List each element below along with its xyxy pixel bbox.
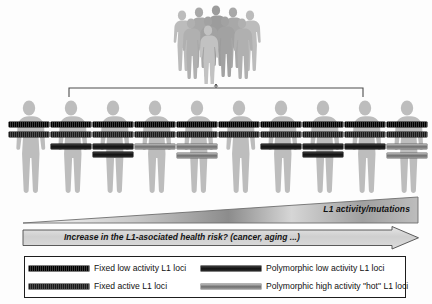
l1-locus-bar-poly-low — [345, 144, 385, 149]
l1-locus-bar-poly-low — [303, 152, 343, 157]
individual-10 — [386, 98, 428, 196]
l1-locus-bar-fixed-active — [93, 132, 133, 137]
legend-item-fixed-low: Fixed low activity L1 loci — [29, 264, 201, 273]
person-silhouette-icon — [8, 98, 50, 196]
legend-swatch-fixed-active-icon — [29, 284, 89, 289]
l1-locus-bar-fixed-active — [9, 132, 49, 137]
legend-item-fixed-active: Fixed active L1 loci — [29, 282, 201, 291]
l1-locus-bar-poly-hot — [135, 144, 175, 149]
individual-2 — [50, 98, 92, 196]
population-crowd — [163, 2, 269, 84]
l1-locus-bar-fixed-low — [387, 122, 427, 127]
l1-locus-bar-poly-hot — [177, 153, 217, 158]
l1-locus-bar-fixed-active — [219, 132, 259, 137]
person-silhouette-icon — [218, 98, 260, 196]
l1-locus-bar-fixed-low — [177, 122, 217, 127]
l1-locus-bar-fixed-active — [303, 132, 343, 137]
individuals-row — [8, 98, 428, 196]
figure-canvas: L1 activity/mutations Increase in the L1… — [0, 0, 432, 304]
individual-7 — [260, 98, 302, 196]
crowd-svg — [163, 2, 269, 84]
individual-8 — [302, 98, 344, 196]
individual-4 — [134, 98, 176, 196]
l1-locus-bar-fixed-low — [93, 122, 133, 127]
individual-9 — [344, 98, 386, 196]
legend-label-poly-low: Polymorphic low activity L1 loci — [266, 264, 384, 273]
l1-locus-bar-fixed-active — [387, 132, 427, 137]
l1-locus-bar-fixed-active — [135, 132, 175, 137]
l1-locus-bar-fixed-active — [51, 132, 91, 137]
l1-locus-bar-fixed-low — [261, 122, 301, 127]
legend-swatch-poly-low-icon — [201, 266, 261, 271]
l1-locus-bar-fixed-low — [303, 122, 343, 127]
legend-box: Fixed low activity L1 loci Polymorphic l… — [24, 256, 406, 298]
l1-locus-bar-fixed-active — [261, 132, 301, 137]
population-bracket — [68, 84, 364, 98]
triangle-label: L1 activity/mutations — [323, 204, 410, 214]
legend-label-fixed-active: Fixed active L1 loci — [94, 282, 167, 291]
l1-locus-bar-poly-low — [303, 144, 343, 149]
legend-grid: Fixed low activity L1 loci Polymorphic l… — [25, 257, 405, 297]
legend-label-poly-hot: Polymorphic high activity "hot" L1 loci — [266, 282, 408, 291]
l1-locus-bar-poly-hot — [387, 153, 427, 158]
individual-6 — [218, 98, 260, 196]
l1-locus-bar-poly-hot — [387, 144, 427, 149]
individual-5 — [176, 98, 218, 196]
l1-locus-bar-poly-hot — [177, 144, 217, 149]
l1-locus-bar-fixed-low — [219, 122, 259, 127]
individual-1 — [8, 98, 50, 196]
legend-swatch-fixed-low-icon — [29, 266, 89, 271]
arrow-label: Increase in the L1-asociated health risk… — [64, 232, 300, 242]
individual-3 — [92, 98, 134, 196]
l1-locus-bar-poly-low — [93, 144, 133, 149]
l1-activity-gradient-triangle: L1 activity/mutations — [22, 196, 420, 226]
l1-locus-bar-fixed-low — [9, 122, 49, 127]
legend-item-poly-hot: Polymorphic high activity "hot" L1 loci — [201, 282, 411, 291]
l1-locus-bar-poly-low — [93, 152, 133, 157]
bracket-svg — [68, 84, 364, 98]
l1-locus-bar-fixed-active — [177, 132, 217, 137]
health-risk-arrow: Increase in the L1-asociated health risk… — [22, 226, 420, 250]
l1-locus-bar-fixed-low — [135, 122, 175, 127]
l1-locus-bar-poly-low — [51, 144, 91, 149]
l1-locus-bar-fixed-low — [51, 122, 91, 127]
legend-label-fixed-low: Fixed low activity L1 loci — [94, 264, 186, 273]
l1-locus-bar-poly-low — [261, 144, 301, 149]
l1-locus-bar-fixed-active — [345, 132, 385, 137]
legend-swatch-poly-hot-icon — [201, 284, 261, 289]
l1-locus-bar-fixed-low — [345, 122, 385, 127]
legend-item-poly-low: Polymorphic low activity L1 loci — [201, 264, 411, 273]
